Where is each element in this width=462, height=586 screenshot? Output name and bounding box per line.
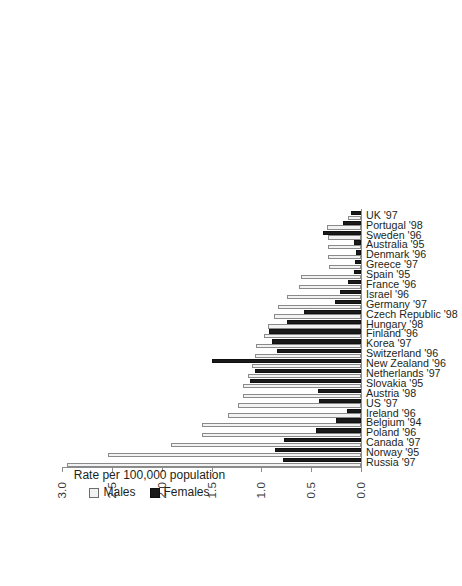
bar-group[interactable] [62,338,361,348]
value-axis-tick [361,468,362,472]
category-label: Greece '97 [364,259,462,269]
bar-females[interactable] [323,231,361,235]
bar-females[interactable] [340,290,361,294]
bar-group[interactable] [62,249,361,259]
bar-group[interactable] [62,368,361,378]
bar-group[interactable] [62,240,361,250]
bar-males[interactable] [248,374,361,378]
bar-group[interactable] [62,299,361,309]
category-label: Sweden '96 [364,230,462,240]
bar-males[interactable] [238,403,361,407]
bar-females[interactable] [348,280,361,284]
bar-group[interactable] [62,230,361,240]
bar-group[interactable] [62,388,361,398]
bar-males[interactable] [287,295,361,299]
bar-males[interactable] [299,285,361,289]
bar-females[interactable] [269,329,361,333]
bar-females[interactable] [356,250,361,254]
bar-males[interactable] [202,423,361,427]
bar-males[interactable] [252,364,361,368]
category-label: France '96 [364,279,462,289]
bar-females[interactable] [319,399,361,403]
bar-males[interactable] [108,453,361,457]
bar-males[interactable] [202,433,361,437]
bar-males[interactable] [228,413,361,417]
bar-females[interactable] [275,448,361,452]
bar-series-area [62,210,361,467]
bar-females[interactable] [354,270,361,274]
bar-males[interactable] [243,394,361,398]
category-label: Germany '97 [364,299,462,309]
bar-males[interactable] [67,463,361,467]
bar-group[interactable] [62,427,361,437]
bar-group[interactable] [62,309,361,319]
bar-males[interactable] [274,314,361,318]
bar-females[interactable] [355,260,361,264]
bar-males[interactable] [256,344,361,348]
category-label: Spain '95 [364,269,462,279]
category-label: Russia '97 [364,457,462,467]
bar-males[interactable] [255,354,361,358]
bar-males[interactable] [301,275,361,279]
bar-group[interactable] [62,329,361,339]
bar-group[interactable] [62,398,361,408]
category-label: Portugal '98 [364,220,462,230]
bar-group[interactable] [62,269,361,279]
bar-group[interactable] [62,418,361,428]
bar-females[interactable] [284,438,361,442]
category-label-text: UK '97 [366,209,398,221]
bar-females[interactable] [354,240,361,244]
bar-group[interactable] [62,289,361,299]
legend-swatch-males-icon [89,488,99,498]
category-label-text: Denmark '96 [366,248,426,260]
bar-females[interactable] [351,211,361,215]
bar-males[interactable] [278,305,361,309]
bar-group[interactable] [62,259,361,269]
bar-females[interactable] [255,369,361,373]
bar-group[interactable] [62,457,361,467]
bar-group[interactable] [62,210,361,220]
bar-females[interactable] [277,349,361,353]
bar-females[interactable] [347,409,361,413]
bar-group[interactable] [62,220,361,230]
bar-females[interactable] [272,339,361,343]
bar-females[interactable] [336,418,361,422]
bar-females[interactable] [304,310,361,314]
bar-group[interactable] [62,279,361,289]
bar-group[interactable] [62,437,361,447]
category-label: Czech Republic '98 [364,309,462,319]
bar-group[interactable] [62,447,361,457]
value-axis-title: Rate per 100,000 population [0,468,299,483]
bar-females[interactable] [287,320,361,324]
bar-males[interactable] [264,334,361,338]
bar-females[interactable] [335,300,361,304]
bar-females[interactable] [283,458,361,462]
bar-males[interactable] [348,216,361,220]
bar-males[interactable] [329,265,361,269]
bar-males[interactable] [328,235,361,239]
category-label: Norway '95 [364,447,462,457]
bar-females[interactable] [212,359,362,363]
bar-females[interactable] [343,221,361,225]
bar-males[interactable] [243,384,361,388]
bar-males[interactable] [328,255,361,259]
category-label: Korea '97 [364,338,462,348]
category-label: Canada '97 [364,437,462,447]
bar-males[interactable] [327,225,361,229]
value-axis-tick-label: 0.0 [355,482,367,586]
bar-females[interactable] [250,379,361,383]
category-label-text: Switzerland '96 [366,347,438,359]
bar-males[interactable] [171,443,361,447]
bar-males[interactable] [268,324,361,328]
bar-females[interactable] [316,428,361,432]
bar-males[interactable] [328,245,361,249]
category-label: Slovakia '95 [364,378,462,388]
bar-group[interactable] [62,348,361,358]
bar-group[interactable] [62,319,361,329]
category-label: Hungary '98 [364,319,462,329]
bar-group[interactable] [62,408,361,418]
bar-group[interactable] [62,378,361,388]
bar-females[interactable] [318,389,361,393]
bar-group[interactable] [62,358,361,368]
